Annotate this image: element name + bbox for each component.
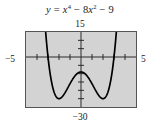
plot-area bbox=[25, 31, 137, 108]
x-axis-min-label: −5 bbox=[5, 54, 15, 64]
equation-constant-term: 9 bbox=[108, 4, 113, 15]
equation-operator-2: − bbox=[99, 4, 105, 15]
y-axis-min-label: −30 bbox=[0, 112, 160, 122]
axes-group bbox=[26, 32, 136, 107]
x-axis-max-label: 5 bbox=[141, 54, 146, 64]
equation-lhs: y bbox=[46, 4, 51, 15]
equation-term2-exponent: 2 bbox=[93, 3, 96, 10]
equation-term1-exponent: 4 bbox=[68, 3, 71, 10]
equation-operator-1: − bbox=[74, 4, 80, 15]
graph-figure: y = x4 − 8x2 − 9 bbox=[0, 0, 160, 131]
equation-caption: y = x4 − 8x2 − 9 bbox=[0, 4, 160, 16]
plot-svg bbox=[26, 32, 136, 107]
y-axis-max-label: 15 bbox=[0, 19, 160, 29]
equation-equals: = bbox=[54, 4, 60, 15]
